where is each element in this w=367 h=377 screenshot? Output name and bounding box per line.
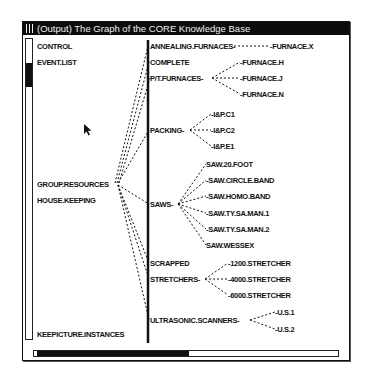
node-ip-c1[interactable]: -I&P.C1: [211, 110, 235, 119]
node-ip-c2[interactable]: -I&P.C2: [211, 126, 235, 135]
node-pt-furnaces[interactable]: P/T.FURNACES-: [150, 74, 203, 83]
node-saw-homo-band[interactable]: -SAW.HOMO.BAND: [206, 192, 270, 201]
node-control[interactable]: CONTROL: [37, 42, 72, 51]
node-us-1[interactable]: -U.S.1: [275, 308, 294, 317]
node-saw-wessex[interactable]: SAW.WESSEX: [206, 241, 254, 250]
node-ip-e1[interactable]: -I&P.E1: [211, 142, 234, 151]
node-furnace-h[interactable]: -FURNACE.H: [240, 58, 284, 67]
node-furnace-j[interactable]: -FURNACE.J: [240, 74, 282, 83]
node-1200-stretcher[interactable]: -1200.STRETCHER: [228, 259, 291, 268]
node-furnace-n[interactable]: -FURNACE.N: [240, 90, 284, 99]
node-saw-ty-sa-man-2[interactable]: -SAW.TY.SA.MAN.2: [206, 225, 269, 234]
node-saw-20-foot[interactable]: SAW.20.FOOT: [206, 160, 253, 169]
node-stretchers[interactable]: STRETCHERS-: [150, 275, 200, 284]
node-furnace-x[interactable]: -FURNACE.X: [270, 42, 313, 51]
node-4000-stretcher[interactable]: -4000.STRETCHER: [228, 275, 291, 284]
node-annealing-furnaces[interactable]: ANNEALING.FURNACES-: [150, 42, 235, 51]
node-complete[interactable]: COMPLETE: [150, 58, 189, 67]
node-us-2[interactable]: -U.S.2: [275, 325, 294, 334]
node-event-list[interactable]: EVENT.LIST: [37, 58, 77, 67]
mouse-pointer-icon: [84, 124, 92, 136]
node-saws[interactable]: SAWS-: [150, 200, 173, 209]
node-house-keeping[interactable]: HOUSE.KEEPING: [37, 196, 96, 205]
node-ultrasonic-scanners[interactable]: ULTRASONIC.SCANNERS-: [150, 316, 239, 325]
node-saw-circle-band[interactable]: -SAW.CIRCLE.BAND: [206, 176, 274, 185]
node-keepicture-instances[interactable]: KEEPICTURE.INSTANCES: [37, 330, 124, 339]
node-group-resources[interactable]: GROUP.RESOURCES: [37, 180, 109, 189]
node-scrapped[interactable]: SCRAPPED: [150, 259, 189, 268]
node-6000-stretcher[interactable]: -6000.STRETCHER: [228, 291, 291, 300]
node-saw-ty-sa-man-1[interactable]: -SAW.TY.SA.MAN.1: [206, 209, 269, 218]
node-packing[interactable]: PACKING-: [150, 126, 184, 135]
